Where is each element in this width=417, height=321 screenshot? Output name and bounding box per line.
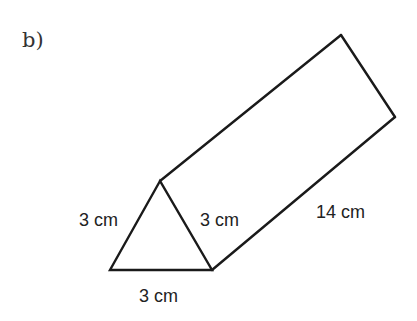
triangular-prism-diagram: 3 cm 3 cm 3 cm 14 cm	[0, 0, 417, 321]
front-bottom-edge-label: 3 cm	[139, 286, 178, 306]
length-edge-label: 14 cm	[316, 202, 365, 222]
front-right-edge-label: 3 cm	[200, 210, 239, 230]
front-triangle-face	[110, 181, 212, 270]
front-left-edge-label: 3 cm	[79, 210, 118, 230]
bottom-length-edge	[212, 117, 395, 270]
top-length-edge	[160, 35, 341, 181]
back-right-edge	[341, 35, 395, 117]
